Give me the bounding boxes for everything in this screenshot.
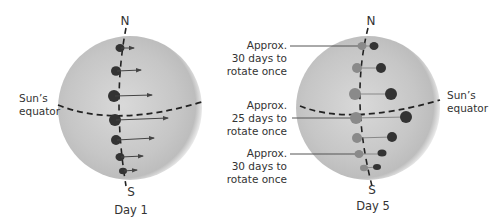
north-label: N — [367, 14, 376, 28]
svg-text:Approx.: Approx. — [247, 99, 287, 111]
annotation-equator: Approx. 25 days to rotate once — [227, 99, 287, 137]
svg-text:rotate once: rotate once — [227, 65, 287, 77]
sunspot-moved — [376, 63, 386, 73]
svg-text:25 days to: 25 days to — [232, 112, 287, 124]
equator-label-line1: Sun’s — [447, 89, 476, 101]
sunspot-original — [352, 63, 362, 73]
day-caption: Day 1 — [114, 203, 148, 217]
sunspot-original — [358, 42, 367, 50]
sun-sphere — [296, 36, 440, 180]
svg-text:Approx.: Approx. — [247, 147, 287, 159]
equator-label-line2: equator — [447, 102, 489, 114]
sunspot-moved — [387, 132, 397, 142]
sunspot-original — [352, 133, 362, 143]
south-label: S — [368, 183, 376, 197]
svg-text:Approx.: Approx. — [247, 39, 287, 51]
differential-rotation-diagram: N S Day 1 Sun’s equator — [0, 0, 498, 220]
sunspot-original — [349, 88, 361, 100]
svg-text:30 days to: 30 days to — [232, 52, 287, 64]
annotation-north-latitude: Approx. 30 days to rotate once — [227, 39, 287, 77]
sunspot-moved — [378, 149, 387, 156]
north-label: N — [121, 14, 130, 28]
equator-label-line2: equator — [19, 105, 61, 117]
sunspot-moved — [370, 42, 379, 50]
svg-text:30 days to: 30 days to — [232, 160, 287, 172]
day1-panel: N S Day 1 Sun’s equator — [19, 14, 202, 217]
svg-text:rotate once: rotate once — [227, 125, 287, 137]
annotation-south-latitude: Approx. 30 days to rotate once — [227, 147, 287, 185]
sunspot-original — [350, 112, 362, 124]
south-label: S — [127, 185, 135, 199]
day5-panel: N S Day 5 Sun’s equator Approx. 30 days … — [227, 14, 489, 213]
sunspot-moved — [400, 111, 412, 123]
sunspot-moved — [373, 164, 381, 170]
sunspot-original — [355, 150, 364, 158]
equator-label-line1: Sun’s — [19, 92, 48, 104]
svg-text:rotate once: rotate once — [227, 173, 287, 185]
sunspot-original — [360, 165, 368, 171]
sunspot-moved — [385, 88, 397, 100]
day-caption: Day 5 — [356, 199, 390, 213]
